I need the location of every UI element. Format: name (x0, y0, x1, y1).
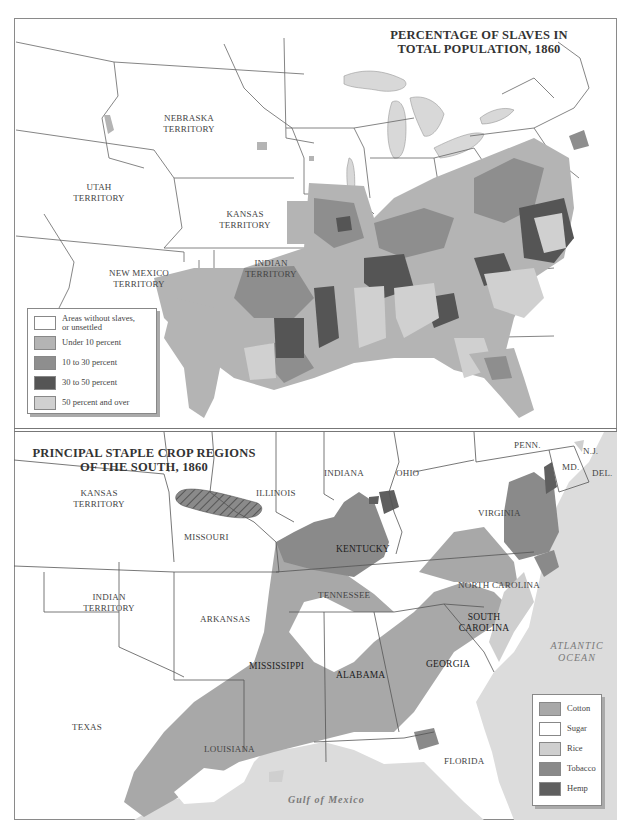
label-indian-territory: INDIAN TERRITORY (74, 592, 144, 614)
legend-item-rice: Rice (539, 739, 595, 759)
label-texas: TEXAS (72, 722, 102, 733)
label-tennessee: TENNESSEE (318, 590, 370, 601)
legend-item-no-slaves: Areas without slaves, or unsettled (34, 313, 150, 333)
legend-label: Rice (567, 744, 583, 754)
label-georgia: GEORGIA (426, 659, 470, 670)
label-indian-territory: INDIAN TERRITORY (236, 258, 306, 280)
legend-item-cotton: Cotton (539, 699, 595, 719)
legend-swatch (34, 356, 56, 370)
label-line: TERRITORY (64, 193, 134, 204)
label-line: INDIAN (74, 592, 144, 603)
legend-swatch (34, 396, 56, 410)
label-line: NEW MEXICO (94, 268, 184, 279)
label-illinois: ILLINOIS (256, 488, 296, 499)
legend-swatch (539, 742, 561, 756)
legend-item-10-to-30: 10 to 30 percent (34, 353, 150, 373)
label-mississippi: MISSISSIPPI (249, 661, 304, 672)
label-arkansas: ARKANSAS (200, 614, 250, 625)
legend-swatch (539, 782, 561, 796)
legend-label: 50 percent and over (62, 398, 129, 408)
label-line: TERRITORY (210, 220, 280, 231)
legend-label: 30 to 50 percent (62, 378, 117, 388)
legend-label: Areas without slaves, or unsettled (62, 314, 135, 333)
label-louisiana: LOUISIANA (204, 744, 255, 755)
top-map-legend: Areas without slaves, or unsettled Under… (27, 308, 157, 414)
label-line: NEBRASKA (154, 113, 224, 124)
slave-population-map: PERCENTAGE OF SLAVES IN TOTAL POPULATION… (14, 18, 617, 428)
bottom-map-legend: Cotton Sugar Rice Tobacco Hemp (532, 694, 602, 806)
label-virginia: VIRGINIA (478, 508, 521, 519)
label-line: TERRITORY (64, 499, 134, 510)
hemp-hatched-missouri (176, 489, 262, 518)
top-map-title-line1: PERCENTAGE OF SLAVES IN (374, 28, 584, 42)
legend-label: Under 10 percent (62, 338, 121, 348)
legend-swatch (539, 702, 561, 716)
label-line: INDIAN (236, 258, 306, 269)
bottom-map-title: PRINCIPAL STAPLE CROP REGIONS OF THE SOU… (14, 446, 274, 474)
label-kentucky: KENTUCKY (336, 544, 390, 555)
label-nebraska-territory: NEBRASKA TERRITORY (154, 113, 224, 135)
legend-item-tobacco: Tobacco (539, 759, 595, 779)
legend-label: Hemp (567, 784, 588, 794)
staple-crop-map: PRINCIPAL STAPLE CROP REGIONS OF THE SOU… (14, 432, 617, 820)
label-south-carolina: SOUTH CAROLINA (454, 612, 514, 634)
label-north-carolina: NORTH CAROLINA (458, 580, 540, 591)
label-line: KANSAS (64, 488, 134, 499)
label-line: KANSAS (210, 209, 280, 220)
label-gulf-of-mexico: Gulf of Mexico (288, 794, 365, 806)
label-new-mexico-territory: NEW MEXICO TERRITORY (94, 268, 184, 290)
label-del: DEL. (592, 468, 613, 479)
label-line: CAROLINA (454, 623, 514, 634)
legend-label: 10 to 30 percent (62, 358, 117, 368)
legend-label: Sugar (567, 724, 587, 734)
legend-item-under-10: Under 10 percent (34, 333, 150, 353)
label-nj: N.J. (583, 446, 598, 457)
bottom-map-title-line2: OF THE SOUTH, 1860 (14, 460, 274, 474)
label-atlantic-ocean: ATLANTIC OCEAN (542, 640, 612, 664)
legend-swatch (34, 376, 56, 390)
label-ohio: OHIO (396, 468, 419, 479)
top-map-title-line2: TOTAL POPULATION, 1860 (374, 42, 584, 56)
label-line: SOUTH (454, 612, 514, 623)
bottom-map-title-line1: PRINCIPAL STAPLE CROP REGIONS (14, 446, 274, 460)
label-md: MD. (562, 462, 579, 473)
label-line: UTAH (64, 182, 134, 193)
label-missouri: MISSOURI (184, 532, 229, 543)
legend-label: Cotton (567, 704, 590, 714)
label-florida: FLORIDA (444, 756, 484, 767)
label-line: TERRITORY (154, 124, 224, 135)
label-utah-territory: UTAH TERRITORY (64, 182, 134, 204)
label-penn: PENN. (514, 440, 541, 451)
legend-swatch (539, 722, 561, 736)
legend-item-sugar: Sugar (539, 719, 595, 739)
label-alabama: ALABAMA (336, 670, 385, 681)
legend-swatch (539, 762, 561, 776)
label-line: TERRITORY (236, 269, 306, 280)
choropleth-regions (104, 115, 589, 418)
label-kansas-territory: KANSAS TERRITORY (210, 209, 280, 231)
label-line: ATLANTIC (542, 640, 612, 652)
label-line: TERRITORY (74, 603, 144, 614)
legend-label-line2: or unsettled (62, 322, 102, 332)
top-map-title: PERCENTAGE OF SLAVES IN TOTAL POPULATION… (374, 28, 584, 56)
legend-label: Tobacco (567, 764, 596, 774)
legend-item-50-plus: 50 percent and over (34, 393, 150, 413)
legend-item-30-to-50: 30 to 50 percent (34, 373, 150, 393)
label-indiana: INDIANA (324, 468, 364, 479)
legend-swatch (34, 336, 56, 350)
legend-label-line1: Areas without slaves, (62, 313, 135, 323)
label-kansas-territory: KANSAS TERRITORY (64, 488, 134, 510)
legend-swatch (34, 316, 56, 330)
panel-divider (14, 428, 617, 429)
legend-item-hemp: Hemp (539, 779, 595, 799)
label-line: TERRITORY (94, 279, 184, 290)
label-line: OCEAN (542, 652, 612, 664)
